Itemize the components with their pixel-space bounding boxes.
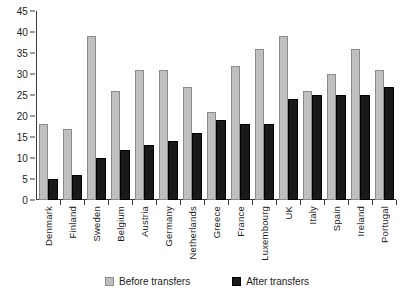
bar-after-transfers <box>336 95 346 200</box>
y-tick-mark <box>30 53 35 54</box>
x-axis-ticks <box>36 200 396 205</box>
x-tick-mark <box>300 200 301 205</box>
x-tick-mark <box>324 200 325 205</box>
bar-group <box>348 11 372 200</box>
bar-after-transfers <box>96 158 106 200</box>
x-tick-mark <box>252 200 253 205</box>
bar-before-transfers <box>159 70 169 200</box>
legend-swatch-before-icon <box>105 277 114 286</box>
bar-before-transfers <box>111 91 121 200</box>
x-axis-category-label: Austria <box>139 206 150 237</box>
y-tick-mark <box>30 74 35 75</box>
bar-after-transfers <box>264 124 274 200</box>
y-tick-mark <box>30 179 35 180</box>
bar-before-transfers <box>255 49 265 200</box>
bar-after-transfers <box>72 175 82 200</box>
legend-swatch-after-icon <box>232 277 241 286</box>
bar-after-transfers <box>312 95 322 200</box>
x-axis-labels: DenmarkFinlandSwedenBelgiumAustriaGerman… <box>36 206 396 268</box>
bar-chart: 051015202530354045 DenmarkFinlandSwedenB… <box>0 0 414 306</box>
legend-item-after: After transfers <box>232 276 309 287</box>
x-axis-category-label: Netherlands <box>187 206 198 259</box>
x-tick-mark <box>204 200 205 205</box>
bar-after-transfers <box>360 95 370 200</box>
y-tick-label: 20 <box>17 111 28 122</box>
bar-before-transfers <box>327 74 337 200</box>
bar-group <box>204 11 228 200</box>
y-tick-label: 35 <box>17 48 28 59</box>
x-axis-category-label: Spain <box>331 206 342 231</box>
x-axis-category-label: Portugal <box>379 206 390 243</box>
bar-before-transfers <box>135 70 145 200</box>
y-tick-label: 5 <box>22 174 28 185</box>
x-axis-category-label: Germany <box>163 206 174 246</box>
x-tick-mark <box>372 200 373 205</box>
y-tick-label: 10 <box>17 153 28 164</box>
x-tick-mark <box>84 200 85 205</box>
bar-after-transfers <box>192 133 202 200</box>
bar-group <box>276 11 300 200</box>
legend-item-before: Before transfers <box>105 276 190 287</box>
y-tick-label: 0 <box>22 195 28 206</box>
x-tick-mark <box>348 200 349 205</box>
bar-group <box>84 11 108 200</box>
y-tick-mark <box>30 32 35 33</box>
y-tick-mark <box>30 200 35 201</box>
chart-legend: Before transfers After transfers <box>0 276 414 298</box>
x-axis-category-label: Ireland <box>355 206 366 236</box>
x-axis-category-label: Luxembourg <box>259 206 270 261</box>
bar-before-transfers <box>87 36 97 200</box>
bar-before-transfers <box>183 87 193 200</box>
x-tick-mark <box>180 200 181 205</box>
bar-before-transfers <box>303 91 313 200</box>
bar-before-transfers <box>375 70 385 200</box>
legend-label-after: After transfers <box>246 276 309 287</box>
bar-group <box>156 11 180 200</box>
x-axis-category-label: Belgium <box>115 206 126 242</box>
bar-group <box>36 11 60 200</box>
bar-after-transfers <box>216 120 226 200</box>
x-axis-category-label: Denmark <box>43 206 54 246</box>
y-tick-mark <box>30 11 35 12</box>
bar-after-transfers <box>168 141 178 200</box>
bar-group <box>372 11 396 200</box>
y-tick-mark <box>30 116 35 117</box>
bars-layer <box>36 11 396 200</box>
bar-group <box>228 11 252 200</box>
bar-group <box>132 11 156 200</box>
y-tick-label: 15 <box>17 132 28 143</box>
y-tick-label: 30 <box>17 69 28 80</box>
x-tick-mark <box>276 200 277 205</box>
x-axis-category-label: Sweden <box>91 206 102 242</box>
bar-after-transfers <box>120 150 130 200</box>
bar-group <box>108 11 132 200</box>
bar-before-transfers <box>351 49 361 200</box>
bar-after-transfers <box>240 124 250 200</box>
x-axis-category-label: Greece <box>211 206 222 238</box>
y-tick-mark <box>30 137 35 138</box>
bar-after-transfers <box>48 179 58 200</box>
x-tick-mark <box>108 200 109 205</box>
y-axis: 051015202530354045 <box>0 0 36 211</box>
bar-before-transfers <box>231 66 241 200</box>
x-axis-category-label: UK <box>283 206 294 220</box>
y-tick-mark <box>30 95 35 96</box>
x-axis-category-label: Italy <box>307 206 318 224</box>
x-tick-mark <box>132 200 133 205</box>
bar-before-transfers <box>39 124 49 200</box>
y-tick-label: 45 <box>17 6 28 17</box>
bar-group <box>60 11 84 200</box>
bar-before-transfers <box>207 112 217 200</box>
bar-group <box>252 11 276 200</box>
bar-group <box>324 11 348 200</box>
bar-after-transfers <box>288 99 298 200</box>
x-axis-category-label: France <box>235 206 246 237</box>
x-tick-mark <box>396 200 397 205</box>
bar-before-transfers <box>63 129 73 200</box>
legend-label-before: Before transfers <box>119 276 190 287</box>
x-axis-category-label: Finland <box>67 206 78 239</box>
bar-before-transfers <box>279 36 289 200</box>
bar-after-transfers <box>144 145 154 200</box>
bar-group <box>180 11 204 200</box>
x-tick-mark <box>156 200 157 205</box>
